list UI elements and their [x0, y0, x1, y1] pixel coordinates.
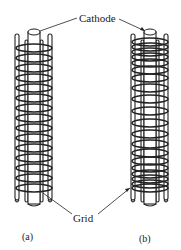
grid-label: Grid: [73, 212, 93, 224]
grid-leader-b: [98, 188, 130, 214]
grid-leader-a: [43, 193, 72, 214]
cathode-leader-a: [40, 18, 77, 31]
cathode-label: Cathode: [79, 12, 116, 24]
leader-lines: [40, 18, 145, 214]
caption-b: (b): [139, 233, 151, 245]
cathode-a: [28, 29, 40, 206]
caption-a: (a): [22, 231, 33, 243]
grid-structure-a: [15, 29, 52, 206]
grid-structure-b: [131, 29, 168, 206]
